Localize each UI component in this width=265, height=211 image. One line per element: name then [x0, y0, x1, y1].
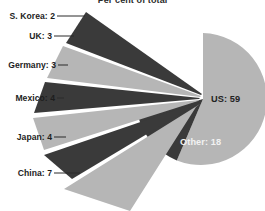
pie-label-germany: Germany: 3	[8, 60, 56, 70]
pie-label-s-korea: S. Korea: 2	[10, 11, 55, 21]
pie-label-uk: UK: 3	[29, 31, 52, 41]
pie-chart: Per cent of total S. Korea: 2 UK: 3 Germ…	[0, 0, 265, 211]
pie-label-us: US: 59	[211, 94, 240, 104]
pie-label-japan: Japan: 4	[17, 132, 52, 142]
pie-label-china: China: 7	[18, 168, 52, 178]
pie-label-mexico: Mexico: 4	[15, 93, 55, 103]
pie-label-other: Other: 18	[180, 137, 221, 147]
